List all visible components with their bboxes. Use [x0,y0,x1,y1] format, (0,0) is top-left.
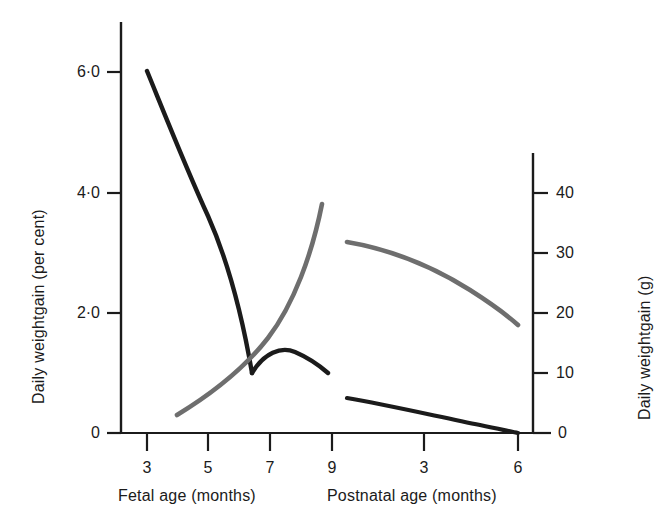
left-tick-label-0: 0 [56,424,100,442]
x-tick-label-fetal-7: 7 [250,459,290,477]
right-axis-ticks [533,193,551,433]
right-tick-label-10: 10 [556,364,596,382]
left-tick-label-2: 2·0 [56,304,100,322]
x-tick-label-fetal-5: 5 [188,459,228,477]
x-tick-label-postnatal-3: 3 [404,459,444,477]
left-axis-ticks [107,72,121,433]
data-curves [147,71,518,433]
x-axis-ticks [147,433,518,451]
y-axis-label-left: Daily weightgain (per cent) [30,209,48,404]
left-tick-label-6: 6·0 [56,63,100,81]
right-tick-label-40: 40 [556,184,596,202]
x-tick-label-fetal-9: 9 [312,459,352,477]
x-tick-label-fetal-3: 3 [127,459,167,477]
curve-fetal-percent-hump [252,350,328,373]
y-axis-label-right: Daily weightgain (g) [636,275,654,420]
x-axis-label-postnatal: Postnatal age (months) [327,487,497,505]
curve-fetal-percent [147,71,252,373]
right-tick-label-20: 20 [556,304,596,322]
right-tick-label-30: 30 [556,244,596,262]
curve-postnatal-grams [347,242,518,325]
x-tick-label-postnatal-6: 6 [498,459,538,477]
left-tick-label-4: 4·0 [56,184,100,202]
right-tick-label-0: 0 [558,424,598,442]
figure-container: 6·0 4·0 2·0 0 40 30 20 10 0 3 5 7 9 3 6 … [0,0,663,532]
curve-postnatal-percent [347,398,518,433]
x-axis-label-fetal: Fetal age (months) [118,487,256,505]
axis-lines [121,22,551,433]
curve-fetal-grams [177,204,322,415]
